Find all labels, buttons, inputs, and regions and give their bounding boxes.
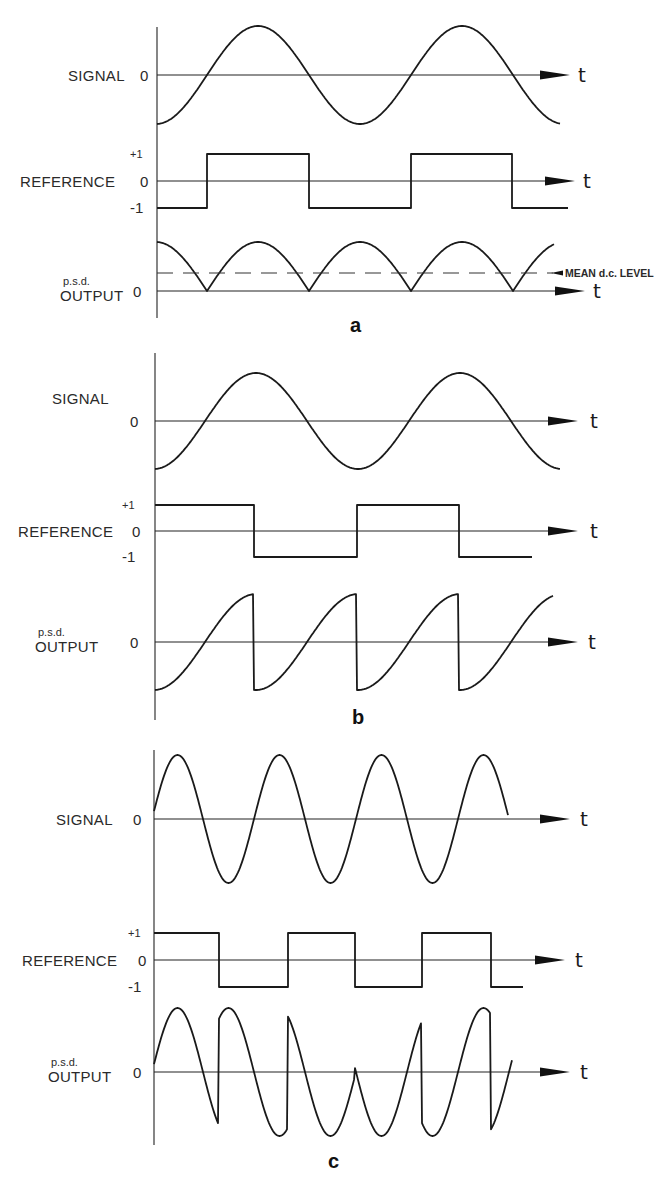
zero-tick-label: 0 <box>130 634 138 651</box>
time-label: t <box>590 519 598 543</box>
row-psd-output: tp.s.d.OUTPUT0 <box>48 1008 588 1136</box>
minus-one-label: -1 <box>130 199 143 216</box>
zero-tick-label: 0 <box>132 523 140 540</box>
mean-arrow-icon <box>551 271 563 276</box>
panel-label: b <box>352 706 364 728</box>
zero-tick-label: 0 <box>140 173 148 190</box>
row-title: SIGNAL <box>68 67 125 84</box>
row-title: SIGNAL <box>56 811 113 828</box>
panel-label: c <box>328 1150 339 1172</box>
row-reference: tREFERENCE0+1-1 <box>22 927 583 995</box>
row-title: SIGNAL <box>52 390 109 407</box>
zero-tick-label: 0 <box>140 67 148 84</box>
time-label: t <box>590 409 598 433</box>
psd-label: p.s.d. <box>63 275 90 287</box>
mean-dc-level-label: MEAN d.c. LEVEL <box>565 267 654 279</box>
psd-label: p.s.d. <box>38 626 65 638</box>
arrow-head-icon <box>548 527 578 536</box>
plus-one-label: +1 <box>122 499 135 511</box>
row-reference: tREFERENCE0+1-1 <box>18 499 598 565</box>
row-title: REFERENCE <box>20 173 115 190</box>
time-label: t <box>588 630 596 654</box>
psd-output-waveform <box>157 242 554 291</box>
panel-c: ctSIGNAL0tREFERENCE0+1-1tp.s.d.OUTPUT0 <box>22 750 588 1172</box>
time-label: t <box>575 948 583 972</box>
psd-label: p.s.d. <box>51 1056 78 1068</box>
arrow-head-icon <box>545 177 575 186</box>
row-title: OUTPUT <box>48 1068 111 1085</box>
arrow-head-icon <box>548 417 578 426</box>
row-signal: tSIGNAL0 <box>68 26 586 124</box>
time-label: t <box>578 63 586 87</box>
panel-label: a <box>350 314 362 336</box>
panel-a: atSIGNAL0tREFERENCE0+1-1tp.s.d.OUTPUT0ME… <box>20 26 654 336</box>
arrow-head-icon <box>535 956 565 965</box>
minus-one-label: -1 <box>122 548 135 565</box>
arrow-head-icon <box>540 815 570 824</box>
row-psd-output: tp.s.d.OUTPUT0 <box>35 594 596 690</box>
panel-b: btSIGNAL0tREFERENCE0+1-1tp.s.d.OUTPUT0 <box>18 353 598 728</box>
minus-one-label: -1 <box>128 978 141 995</box>
arrow-head-icon <box>540 71 570 80</box>
row-signal: tSIGNAL0 <box>56 755 588 883</box>
plus-one-label: +1 <box>128 927 141 939</box>
row-title: OUTPUT <box>60 287 123 304</box>
row-title: REFERENCE <box>18 523 113 540</box>
row-psd-output: tp.s.d.OUTPUT0MEAN d.c. LEVEL <box>60 242 654 304</box>
row-signal: tSIGNAL0 <box>52 373 598 469</box>
arrow-head-icon <box>548 638 578 647</box>
time-label: t <box>583 169 591 193</box>
time-label: t <box>580 807 588 831</box>
plus-one-label: +1 <box>130 148 143 160</box>
zero-tick-label: 0 <box>133 283 141 300</box>
zero-tick-label: 0 <box>130 413 138 430</box>
zero-tick-label: 0 <box>138 952 146 969</box>
row-title: REFERENCE <box>22 952 117 969</box>
arrow-head-icon <box>540 1068 570 1077</box>
row-reference: tREFERENCE0+1-1 <box>20 148 591 216</box>
zero-tick-label: 0 <box>133 811 141 828</box>
row-title: OUTPUT <box>35 638 98 655</box>
time-label: t <box>580 1060 588 1084</box>
zero-tick-label: 0 <box>133 1064 141 1081</box>
time-label: t <box>593 279 601 303</box>
phase-sensitive-detector-waveform-diagram: atSIGNAL0tREFERENCE0+1-1tp.s.d.OUTPUT0ME… <box>0 0 669 1178</box>
arrow-head-icon <box>555 287 585 296</box>
